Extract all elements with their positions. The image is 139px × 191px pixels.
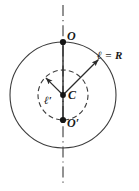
inner-radius-arrow <box>46 78 63 95</box>
geometry-figure: O C O′ ℓ = R ℓ′ <box>0 0 139 191</box>
inner-radius-label: ℓ′ <box>44 95 52 106</box>
point-label-O: O <box>67 30 76 42</box>
outer-radius-label: ℓ = R <box>97 50 123 61</box>
point-label-C: C <box>68 89 76 101</box>
point-label-O-prime: O′ <box>67 117 79 129</box>
point-marker-O-prime <box>60 117 66 123</box>
point-marker-C <box>60 92 66 98</box>
point-marker-O <box>60 39 66 45</box>
